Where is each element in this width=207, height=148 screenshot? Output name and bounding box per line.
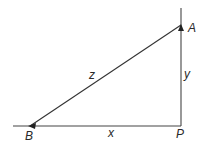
- hypotenuse-line-ba: [30, 25, 181, 126]
- label-a: A: [187, 21, 196, 35]
- arrow-a-icon: [178, 24, 184, 31]
- label-y: y: [183, 67, 191, 81]
- triangle-diagram: A y z x P B: [0, 0, 207, 148]
- label-x: x: [107, 126, 115, 140]
- label-p: P: [176, 127, 184, 141]
- label-b: B: [25, 129, 33, 143]
- label-z: z: [88, 68, 95, 82]
